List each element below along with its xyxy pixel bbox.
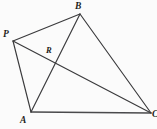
vertex-label-R: R: [46, 46, 52, 55]
vertex-label-A: A: [20, 116, 26, 126]
segment-A-P: [13, 41, 31, 112]
vertex-label-C: C: [152, 110, 157, 120]
segment-B-C: [80, 14, 151, 113]
vertex-label-P: P: [3, 30, 9, 40]
segment-A-C: [31, 112, 151, 113]
segment-P-B: [13, 14, 80, 41]
figure-canvas: [0, 0, 157, 129]
vertex-label-B: B: [75, 2, 81, 12]
segment-P-C: [13, 41, 151, 113]
geometry-figure: P B R A C: [0, 0, 157, 129]
